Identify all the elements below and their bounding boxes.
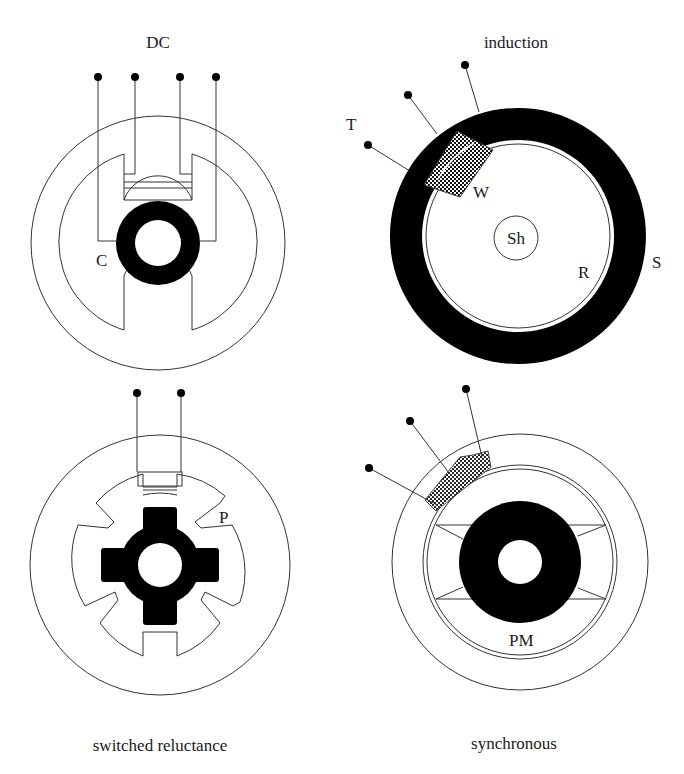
sr-title: switched reluctance [93, 736, 228, 755]
terminal-dot [365, 464, 373, 472]
sr-terminals [133, 389, 185, 472]
switched-reluctance-panel: P switched reluctance [30, 389, 290, 755]
terminal-dot [212, 73, 220, 81]
terminal-dot [177, 389, 185, 397]
synchronous-motor-panel: PM synchronous [365, 385, 648, 753]
terminal-dot [176, 73, 184, 81]
sr-rotor [101, 507, 219, 625]
motor-types-diagram: DC C induction [0, 0, 684, 774]
induction-label-rotor: R [578, 263, 590, 282]
sr-shaft [138, 543, 182, 587]
terminal-dot [461, 61, 469, 69]
induction-title: induction [484, 33, 549, 52]
terminal-dot [131, 73, 139, 81]
sync-shaft [498, 540, 542, 584]
sync-winding [425, 451, 491, 511]
induction-label-shaft: Sh [507, 229, 525, 248]
terminal-dot [404, 91, 412, 99]
terminal-dot [462, 385, 470, 393]
dc-title: DC [146, 33, 170, 52]
sr-label-pole: P [219, 508, 228, 527]
sync-title: synchronous [471, 734, 557, 753]
terminal-dot [406, 417, 414, 425]
induction-label-stator: S [652, 253, 661, 272]
terminal-dot [94, 73, 102, 81]
dc-label-commutator: C [96, 251, 107, 270]
terminal-dot [364, 141, 372, 149]
terminal-dot [133, 389, 141, 397]
induction-label-winding: W [473, 183, 490, 202]
dc-motor-panel: DC C [31, 33, 285, 370]
induction-label-terminal: T [346, 115, 357, 134]
induction-motor-panel: induction Sh T W R S [346, 33, 661, 364]
dc-shaft [135, 220, 181, 266]
sync-label-pm: PM [509, 631, 534, 650]
